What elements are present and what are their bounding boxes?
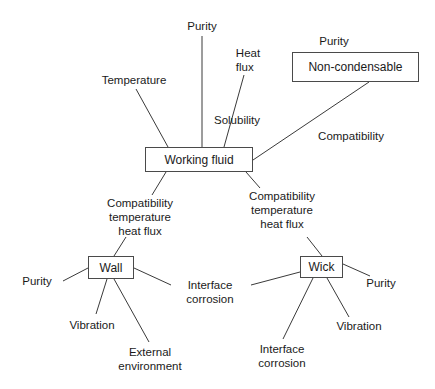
interface-corrosion-mid-label: Interfacecorrosion — [186, 278, 233, 306]
label-line: Solubility — [214, 113, 260, 127]
non-condensable-label: Non-condensable — [308, 60, 402, 74]
edge-working_fluid-compat_left — [152, 172, 166, 195]
label-line: Compatibility — [318, 129, 384, 143]
wick-interface-corrosion-label: Interfacecorrosion — [258, 342, 305, 370]
wick-purity-label: Purity — [366, 276, 395, 290]
wall-vibration-label: Vibration — [69, 318, 114, 332]
wick-vibration-label: Vibration — [336, 319, 381, 333]
label-line: Interface — [258, 342, 305, 356]
non-condensable-box: Non-condensable — [292, 52, 419, 82]
label-line: Purity — [366, 276, 395, 290]
label-line: Compatibility — [107, 196, 173, 210]
edge-wall-wall_external — [114, 279, 149, 342]
label-line: heat flux — [249, 217, 315, 231]
label-line: Purity — [319, 34, 348, 48]
label-line: Purity — [22, 274, 51, 288]
compatibility-noncond-label: Compatibility — [318, 129, 384, 143]
label-line: Purity — [187, 19, 216, 33]
compat-left-label: Compatibilitytemperatureheat flux — [107, 196, 173, 238]
label-line: flux — [236, 60, 260, 74]
wick-box: Wick — [300, 256, 343, 278]
edge-non_condensable-working_fluid — [253, 82, 369, 160]
wall-box: Wall — [88, 256, 134, 279]
label-line: Temperature — [102, 73, 167, 87]
edge-compat_right-wick — [307, 237, 322, 256]
purity-top-label: Purity — [187, 19, 216, 33]
edge-wall-wall_vibration — [96, 279, 107, 314]
concept-map: Working fluid Non-condensable Wall Wick … — [0, 0, 435, 389]
label-line: heat flux — [107, 224, 173, 238]
solubility-label: Solubility — [214, 113, 260, 127]
label-line: Heat — [236, 46, 260, 60]
label-line: corrosion — [258, 356, 305, 370]
edge-compat_left-wall — [114, 237, 126, 256]
wall-label: Wall — [100, 261, 123, 275]
label-line: Interface — [186, 278, 233, 292]
edge-heat_flux-working_fluid — [224, 75, 244, 147]
label-line: temperature — [249, 203, 315, 217]
working-fluid-label: Working fluid — [164, 153, 233, 167]
edge-wick-wick_interface_corrosion — [283, 278, 313, 339]
purity-noncond-label: Purity — [319, 34, 348, 48]
edge-working_fluid-compat_right — [246, 172, 260, 188]
label-line: Vibration — [69, 318, 114, 332]
edge-wall-interface_corrosion_mid — [134, 268, 171, 285]
label-line: Compatibility — [249, 189, 315, 203]
edge-wall-wall_purity — [63, 268, 88, 281]
edge-temperature-working_fluid — [136, 89, 168, 147]
wall-purity-label: Purity — [22, 274, 51, 288]
edge-wick-interface_corrosion_mid — [251, 272, 300, 285]
wall-external-label: Externalenvironment — [118, 345, 181, 373]
label-line: environment — [118, 359, 181, 373]
label-line: Vibration — [336, 319, 381, 333]
compat-right-label: Compatibilitytemperatureheat flux — [249, 189, 315, 231]
wick-label: Wick — [309, 260, 335, 274]
label-line: External — [118, 345, 181, 359]
edge-wick-wick_vibration — [327, 278, 349, 317]
heat-flux-label: Heatflux — [236, 46, 260, 74]
edge-wick-wick_purity — [343, 264, 370, 276]
label-line: temperature — [107, 210, 173, 224]
label-line: corrosion — [186, 292, 233, 306]
temperature-label: Temperature — [102, 73, 167, 87]
working-fluid-box: Working fluid — [145, 147, 253, 172]
